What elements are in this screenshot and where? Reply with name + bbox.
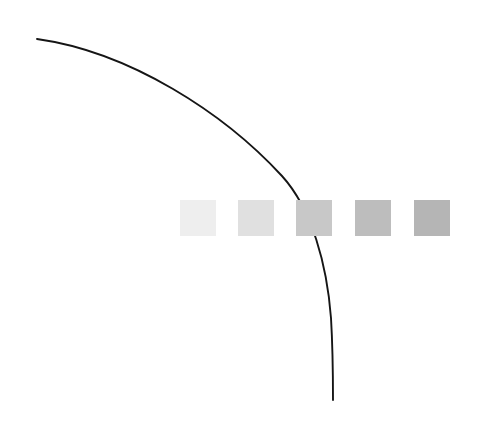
gradient-square-2 bbox=[238, 200, 274, 236]
gradient-square-5 bbox=[414, 200, 450, 236]
figure-canvas bbox=[0, 0, 479, 424]
gradient-square-4 bbox=[355, 200, 391, 236]
gradient-square-1 bbox=[180, 200, 216, 236]
figure-svg bbox=[0, 0, 479, 424]
gradient-square-3 bbox=[296, 200, 332, 236]
